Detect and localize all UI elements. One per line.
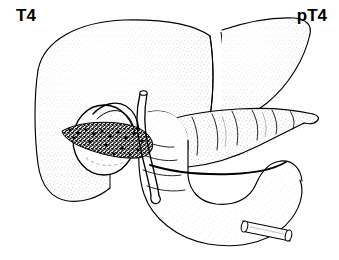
anatomical-figure: T4 pT4 [0,0,339,260]
liver-left-lobe [222,18,310,122]
hepatic-duct-stump [140,91,147,96]
falciform-ligament [210,32,224,120]
stage-label-left: T4 [16,6,36,26]
anatomy-illustration [0,0,339,260]
bile-duct-cut-end [151,196,161,204]
stage-label-right: pT4 [297,6,327,26]
